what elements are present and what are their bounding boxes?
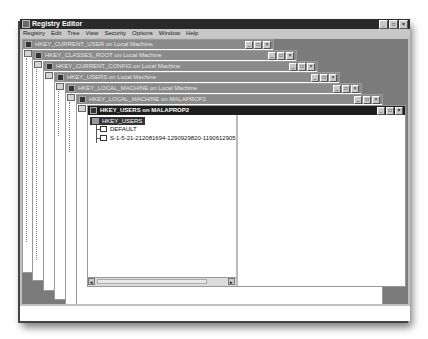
registry-key-icon — [35, 52, 42, 59]
folder-icon — [100, 126, 107, 132]
child-window-controls: _ □ × — [268, 52, 294, 60]
key-tree-pane[interactable]: HKEY_USERS DEFAULT S-1-5-21-212081694-12… — [88, 115, 238, 286]
child-window-controls: _ □ × — [377, 107, 403, 115]
scroll-right-arrow[interactable]: ▸ — [228, 278, 235, 285]
child-title-bar[interactable]: HKEY_LOCAL_MACHINE on MALAPROP2 _ □ × — [77, 95, 382, 104]
child-window-controls: _ □ × — [333, 85, 359, 93]
mdi-client-area: HKEY_CURRENT_USER on Local Machine _ □ ×… — [22, 39, 408, 304]
child-title-bar[interactable]: HKEY_USERS on MALAPROP2 _ □ × — [88, 106, 405, 115]
child-window-controls: _ □ × — [354, 96, 380, 104]
close-button[interactable]: × — [399, 20, 408, 29]
registry-key-icon — [25, 41, 32, 48]
scroll-left-arrow[interactable]: ◂ — [88, 278, 95, 285]
status-bar — [20, 306, 410, 321]
child-window-hku-malaprop2[interactable]: HKEY_USERS on MALAPROP2 _ □ × HKEY_USERS — [87, 105, 406, 287]
close-button[interactable]: × — [329, 74, 337, 82]
tree-item-label: S-1-5-21-212081694-1290929820-1190612905 — [110, 135, 236, 141]
tree-connector — [36, 69, 43, 260]
minimize-button[interactable]: _ — [354, 96, 362, 104]
child-window-title: HKEY_USERS on MALAPROP2 — [100, 106, 189, 115]
tree-item-label: DEFAULT — [110, 126, 137, 132]
minimize-button[interactable]: _ — [379, 20, 388, 29]
minimize-button[interactable]: _ — [377, 107, 385, 115]
folder-icon — [45, 72, 53, 79]
menu-window[interactable]: Window — [159, 29, 180, 38]
minimize-button[interactable]: _ — [245, 41, 253, 49]
menu-bar: Registry Edit Tree View Security Options… — [20, 29, 410, 38]
registry-editor-window: Registry Editor _ □ × Registry Edit Tree… — [20, 19, 410, 321]
tree-item-default[interactable]: DEFAULT — [100, 125, 137, 133]
minimize-button[interactable]: _ — [268, 52, 276, 60]
horizontal-scrollbar[interactable]: ◂ ▸ — [88, 277, 236, 286]
close-button[interactable]: × — [395, 107, 403, 115]
child-window-controls: _ □ × — [245, 41, 271, 49]
maximize-button[interactable]: □ — [386, 107, 394, 115]
child-window-title: HKEY_CLASSES_ROOT on Local Machine — [45, 51, 162, 60]
tree-root-hkey-users[interactable]: HKEY_USERS — [90, 117, 145, 125]
scroll-thumb[interactable] — [97, 279, 207, 284]
minimize-button[interactable]: _ — [311, 74, 319, 82]
folder-icon — [67, 94, 75, 101]
child-window-title: HKEY_CURRENT_USER on Local Machine — [35, 40, 153, 49]
child-window-controls: _ □ × — [289, 63, 315, 71]
maximize-button[interactable]: □ — [389, 20, 398, 29]
menu-registry[interactable]: Registry — [23, 29, 45, 38]
child-window-title: HKEY_LOCAL_MACHINE on Local Machine — [78, 84, 197, 93]
child-title-bar[interactable]: HKEY_CURRENT_CONFIG on Local Machine _ □… — [44, 62, 317, 71]
child-window-title: HKEY_CURRENT_CONFIG on Local Machine — [56, 62, 180, 71]
child-window-title: HKEY_USERS on Local Machine — [67, 73, 156, 82]
minimize-button[interactable]: _ — [333, 85, 341, 93]
registry-key-icon — [46, 63, 53, 70]
registry-key-icon — [79, 96, 86, 103]
registry-key-icon — [90, 107, 97, 114]
folder-icon — [34, 61, 42, 68]
folder-icon — [56, 83, 64, 90]
maximize-button[interactable]: □ — [320, 74, 328, 82]
menu-edit[interactable]: Edit — [51, 29, 61, 38]
computer-icon — [92, 118, 99, 124]
menu-help[interactable]: Help — [186, 29, 198, 38]
close-button[interactable]: × — [286, 52, 294, 60]
menu-security[interactable]: Security — [104, 29, 126, 38]
maximize-button[interactable]: □ — [363, 96, 371, 104]
folder-icon — [78, 105, 86, 112]
close-button[interactable]: × — [372, 96, 380, 104]
tree-connector — [58, 91, 65, 136]
close-button[interactable]: × — [263, 41, 271, 49]
tree-connector — [96, 125, 97, 143]
app-title-bar[interactable]: Registry Editor _ □ × — [20, 19, 410, 29]
close-button[interactable]: × — [307, 63, 315, 71]
child-window-controls: _ □ × — [311, 74, 337, 82]
registry-key-icon — [57, 74, 64, 81]
maximize-button[interactable]: □ — [277, 52, 285, 60]
values-pane[interactable] — [238, 115, 405, 286]
tree-root-label: HKEY_USERS — [102, 118, 142, 124]
app-title: Registry Editor — [32, 19, 82, 29]
child-title-bar[interactable]: HKEY_CURRENT_USER on Local Machine _ □ × — [23, 40, 273, 49]
child-title-bar[interactable]: HKEY_LOCAL_MACHINE on Local Machine _ □ … — [66, 84, 361, 93]
registry-app-icon[interactable] — [22, 20, 30, 28]
minimize-button[interactable]: _ — [289, 63, 297, 71]
menu-tree[interactable]: Tree — [67, 29, 79, 38]
tree-connector — [69, 102, 76, 152]
maximize-button[interactable]: □ — [298, 63, 306, 71]
close-button[interactable]: × — [351, 85, 359, 93]
menu-options[interactable]: Options — [132, 29, 153, 38]
registry-key-icon — [68, 85, 75, 92]
child-window-title: HKEY_LOCAL_MACHINE on MALAPROP2 — [89, 95, 206, 104]
menu-view[interactable]: View — [85, 29, 98, 38]
tree-item-user-sid[interactable]: S-1-5-21-212081694-1290929820-1190612905 — [100, 134, 236, 142]
window-controls: _ □ × — [379, 20, 408, 29]
child-title-bar[interactable]: HKEY_USERS on Local Machine _ □ × — [55, 73, 339, 82]
folder-icon — [24, 50, 32, 57]
maximize-button[interactable]: □ — [342, 85, 350, 93]
maximize-button[interactable]: □ — [254, 41, 262, 49]
folder-icon — [100, 135, 107, 141]
child-title-bar[interactable]: HKEY_CLASSES_ROOT on Local Machine _ □ × — [33, 51, 296, 60]
